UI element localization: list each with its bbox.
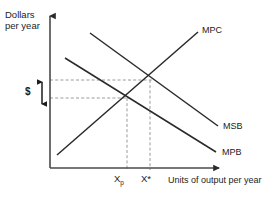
y-axis-label-line2: per year — [5, 21, 40, 32]
diagram-canvas — [0, 0, 268, 198]
curve-label-msb: MSB — [223, 121, 243, 131]
externality-diagram: Dollars per year Units of output per yea… — [0, 0, 268, 198]
x-tick-xp-subscript: p — [120, 179, 124, 186]
x-tick-label-xp: Xp — [114, 174, 124, 186]
curve-mpb — [65, 58, 216, 152]
dollar-gap-label: $ — [25, 86, 31, 97]
curve-label-mpc: MPC — [202, 25, 222, 35]
x-axis-label: Units of output per year — [168, 175, 262, 185]
curve-label-mpb: MPB — [222, 147, 242, 157]
x-tick-label-xstar: X* — [141, 174, 151, 185]
y-axis-label: Dollars per year — [5, 10, 40, 31]
